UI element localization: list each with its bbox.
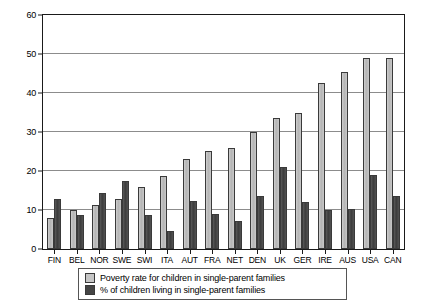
y-tick-label: 0: [31, 245, 36, 254]
bar-series2: [393, 196, 400, 249]
x-tick-label: FIN: [43, 255, 66, 265]
bar-series2: [54, 199, 61, 249]
bar-series2: [145, 215, 152, 249]
bar-chart: 0102030405060 FINBELNORSWESWIITAAUTFRANE…: [0, 0, 425, 301]
bar-group: [133, 15, 156, 249]
bar-series2: [167, 231, 174, 249]
x-tick-label: UK: [269, 255, 292, 265]
x-tick-mark: [178, 250, 201, 254]
bar-series1: [115, 199, 122, 249]
x-tick-label: ITA: [156, 255, 179, 265]
legend-item: % of children living in single-parent fa…: [85, 284, 341, 296]
bar-series1: [363, 58, 370, 249]
bar-group: [381, 15, 404, 249]
bar-series2: [280, 167, 287, 249]
y-tick-label: 40: [26, 89, 36, 98]
legend-item: Poverty rate for children in single-pare…: [85, 272, 341, 284]
x-tick-label: CAN: [381, 255, 404, 265]
bar-series1: [160, 176, 167, 249]
bar-series2: [257, 196, 264, 249]
x-axis-ticks: [43, 250, 404, 254]
x-tick-mark: [156, 250, 179, 254]
bar-series2: [325, 210, 332, 249]
x-tick-label: SWI: [133, 255, 156, 265]
bar-group: [178, 15, 201, 249]
x-tick-label: NET: [224, 255, 247, 265]
bar-series2: [235, 221, 242, 249]
x-tick-mark: [111, 250, 134, 254]
bar-series1: [70, 210, 77, 249]
x-tick-label: IRE: [314, 255, 337, 265]
bar-series1: [205, 151, 212, 249]
x-tick-mark: [88, 250, 111, 254]
x-tick-mark: [291, 250, 314, 254]
x-tick-label: SWE: [111, 255, 134, 265]
legend: Poverty rate for children in single-pare…: [78, 268, 347, 300]
bar-series1: [138, 187, 145, 249]
x-tick-label: USA: [359, 255, 382, 265]
x-tick-mark: [66, 250, 89, 254]
bar-group: [43, 15, 66, 249]
bar-series1: [183, 159, 190, 249]
bar-group: [336, 15, 359, 249]
x-tick-mark: [133, 250, 156, 254]
x-tick-mark: [201, 250, 224, 254]
x-tick-mark: [314, 250, 337, 254]
x-tick-mark: [43, 250, 66, 254]
bar-series1: [341, 72, 348, 249]
bar-group: [88, 15, 111, 249]
bar-group: [111, 15, 134, 249]
bar-series2: [348, 209, 355, 249]
y-tick-label: 20: [26, 167, 36, 176]
x-axis-labels: FINBELNORSWESWIITAAUTFRANETDENUKGERIREAU…: [43, 255, 404, 265]
bar-series1: [318, 83, 325, 249]
bar-series2: [370, 175, 377, 249]
bar-group: [156, 15, 179, 249]
bar-group: [359, 15, 382, 249]
x-tick-mark: [269, 250, 292, 254]
bar-group: [269, 15, 292, 249]
bar-series1: [47, 218, 54, 249]
bar-series1: [273, 118, 280, 249]
y-tick-label: 10: [26, 206, 36, 215]
x-tick-mark: [224, 250, 247, 254]
legend-label-series1: Poverty rate for children in single-pare…: [100, 273, 285, 283]
legend-swatch-series2: [85, 285, 95, 295]
bar-series2: [212, 214, 219, 249]
legend-swatch-series1: [85, 273, 95, 283]
x-tick-label: DEN: [246, 255, 269, 265]
y-tick-label: 30: [26, 128, 36, 137]
bar-series1: [386, 58, 393, 249]
bar-series2: [190, 201, 197, 249]
x-tick-label: AUT: [178, 255, 201, 265]
bar-group: [201, 15, 224, 249]
bar-series1: [295, 113, 302, 250]
bar-group: [66, 15, 89, 249]
x-tick-mark: [381, 250, 404, 254]
x-tick-mark: [246, 250, 269, 254]
bar-groups: [43, 15, 404, 249]
x-tick-mark: [359, 250, 382, 254]
bar-series2: [99, 193, 106, 249]
x-tick-label: AUS: [336, 255, 359, 265]
bar-group: [291, 15, 314, 249]
bar-series2: [122, 181, 129, 249]
bar-series1: [228, 148, 235, 249]
x-tick-label: BEL: [66, 255, 89, 265]
bar-group: [246, 15, 269, 249]
bar-group: [224, 15, 247, 249]
y-tick-label: 60: [26, 11, 36, 20]
bar-series2: [77, 215, 84, 249]
bar-group: [314, 15, 337, 249]
bar-series1: [250, 132, 257, 249]
bar-series1: [92, 205, 99, 249]
y-tick-label: 50: [26, 50, 36, 59]
y-axis: 0102030405060: [0, 0, 42, 301]
bar-series2: [302, 202, 309, 249]
x-tick-label: NOR: [88, 255, 111, 265]
x-tick-label: GER: [291, 255, 314, 265]
x-tick-mark: [336, 250, 359, 254]
x-tick-label: FRA: [201, 255, 224, 265]
legend-label-series2: % of children living in single-parent fa…: [100, 285, 265, 295]
